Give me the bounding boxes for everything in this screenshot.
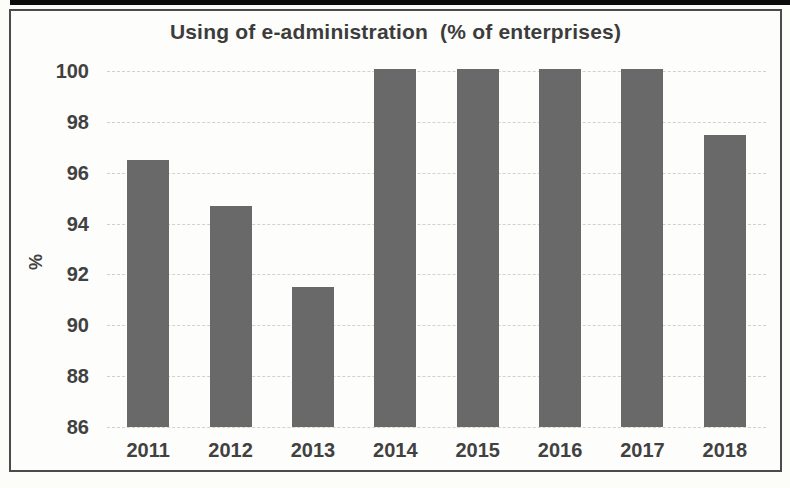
y-tick-label-90: 90 bbox=[27, 314, 89, 336]
y-tick-label-94: 94 bbox=[27, 213, 89, 235]
bar-2018 bbox=[704, 135, 746, 427]
x-axis: 20112012201320142015201620172018 bbox=[107, 437, 766, 463]
x-tick-label-2018: 2018 bbox=[684, 437, 766, 463]
y-tick-label-86: 86 bbox=[27, 416, 89, 438]
y-tick-label-92: 92 bbox=[27, 263, 89, 285]
bar-2014 bbox=[374, 69, 416, 427]
x-tick-label-2016: 2016 bbox=[519, 437, 601, 463]
gridline-100 bbox=[107, 71, 766, 72]
bar-2015 bbox=[457, 69, 499, 427]
y-tick-label-96: 96 bbox=[27, 162, 89, 184]
plot-area bbox=[107, 71, 766, 427]
x-tick-label-2015: 2015 bbox=[437, 437, 519, 463]
gridline-92 bbox=[107, 274, 766, 275]
bar-2011 bbox=[127, 160, 169, 427]
y-tick-label-98: 98 bbox=[27, 111, 89, 133]
chart-frame: Using of e-administration (% of enterpri… bbox=[9, 9, 782, 472]
bar-2013 bbox=[292, 287, 334, 427]
y-axis: 86889092949698100 bbox=[11, 11, 101, 470]
gridline-98 bbox=[107, 122, 766, 123]
bar-2017 bbox=[621, 69, 663, 427]
gridline-86 bbox=[107, 427, 766, 428]
x-tick-label-2017: 2017 bbox=[601, 437, 683, 463]
gridline-94 bbox=[107, 224, 766, 225]
y-tick-label-100: 100 bbox=[27, 60, 89, 82]
x-tick-label-2011: 2011 bbox=[107, 437, 189, 463]
gridline-90 bbox=[107, 325, 766, 326]
bar-2012 bbox=[210, 206, 252, 427]
y-tick-label-88: 88 bbox=[27, 365, 89, 387]
x-tick-label-2012: 2012 bbox=[189, 437, 271, 463]
scanned-page: Using of e-administration (% of enterpri… bbox=[0, 0, 790, 488]
chart-title: Using of e-administration (% of enterpri… bbox=[11, 20, 780, 44]
x-tick-label-2014: 2014 bbox=[354, 437, 436, 463]
gridline-88 bbox=[107, 376, 766, 377]
page-top-rule bbox=[10, 0, 790, 5]
bar-2016 bbox=[539, 69, 581, 427]
x-tick-label-2013: 2013 bbox=[272, 437, 354, 463]
gridline-96 bbox=[107, 173, 766, 174]
